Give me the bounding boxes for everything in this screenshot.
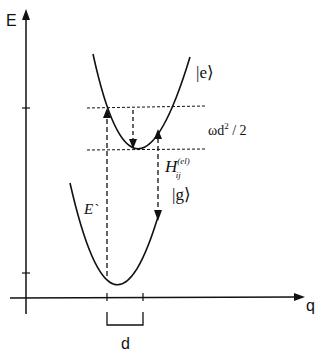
vertical-energy-label: E` bbox=[83, 201, 98, 217]
coordinate-axis-label: q bbox=[306, 297, 315, 314]
coordinate-axis bbox=[10, 293, 305, 301]
vertical-excitation-arrow bbox=[103, 108, 111, 276]
reorganization-energy-label: ωd2 / 2 bbox=[208, 121, 247, 138]
upper-energy-guide bbox=[87, 106, 206, 108]
displacement-label: d bbox=[121, 335, 130, 352]
arrow-down-icon bbox=[154, 210, 162, 221]
coordinate-axis-arrow-icon bbox=[294, 293, 305, 301]
energy-axis-label: E bbox=[6, 12, 17, 29]
excited-state-label: |e⟩ bbox=[196, 63, 214, 82]
arrow-down-icon bbox=[129, 139, 137, 149]
excited-state-curve bbox=[93, 54, 190, 149]
ground-state-curve bbox=[70, 183, 160, 285]
coupling-label: H(el)ij bbox=[164, 156, 190, 180]
energy-axis-arrow-icon bbox=[22, 9, 30, 20]
excited-minimum-guide bbox=[87, 149, 206, 150]
ground-state-label: |g⟩ bbox=[172, 185, 191, 204]
energy-diagram: E q |e⟩ |g⟩ E` ωd2 / 2 H(el)ij d bbox=[0, 0, 318, 354]
relaxation-arrow bbox=[129, 110, 137, 149]
coupling-arrow bbox=[154, 129, 162, 221]
displacement-bracket bbox=[107, 312, 143, 325]
energy-axis bbox=[22, 9, 30, 314]
